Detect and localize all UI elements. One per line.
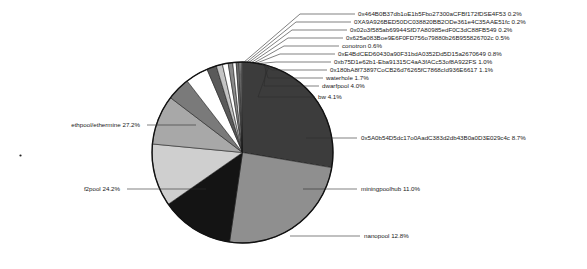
slice-label: 0xE4BdCED60430a90F31bdA0352Dd5D15a267064… bbox=[338, 50, 502, 57]
slice-label: waterhole 1.7% bbox=[325, 74, 369, 81]
slice-label: 0x5A0b54D5dc17o0AadC383d2db43B0a0D3E029c… bbox=[361, 134, 526, 141]
pie-slice[interactable] bbox=[230, 153, 332, 244]
stray-dot-artifact bbox=[19, 154, 21, 156]
slice-label: 0xb75D1e62b1-Eba91315C4aA3fACc53of8A922F… bbox=[334, 58, 493, 65]
pie-chart-figure: ethpool/ethermine 27.2%f2pool 24.2%0x5A0… bbox=[0, 0, 587, 269]
leader-line bbox=[259, 62, 331, 64]
slice-label: 0x02o3f585ab69944SfD7A80985edF0C3dC88FB5… bbox=[350, 26, 513, 33]
slice-label: ethpool/ethermine 27.2% bbox=[71, 121, 140, 128]
pie-chart-canvas: ethpool/ethermine 27.2%f2pool 24.2%0x5A0… bbox=[0, 0, 587, 269]
slice-label: 0x180bA8f73897CoCB26d76265fC7868cId936E6… bbox=[330, 66, 494, 73]
slice-label: conotron 0.6% bbox=[342, 42, 382, 49]
slice-label: nanopool 12.8% bbox=[364, 232, 409, 239]
pie-slices bbox=[152, 62, 333, 243]
leader-line bbox=[247, 22, 351, 62]
slice-label: 0x464B0B37db1oE1b5Fbo27300aCFBf172fDSE4F… bbox=[358, 10, 522, 17]
slice-label: miningpoolhub 11.0% bbox=[361, 185, 421, 192]
slice-label: f2pool 24.2% bbox=[84, 185, 121, 192]
slice-label: dwarfpool 4.0% bbox=[322, 82, 365, 89]
slice-label: bw 4.1% bbox=[318, 93, 342, 100]
slice-label: 0XA9A926BED50DC038820BB2ODe361e4C35AAE51… bbox=[354, 18, 526, 25]
slice-label: 0x625a083Boe9E6F0FD756o79880b26B95582670… bbox=[346, 34, 510, 41]
